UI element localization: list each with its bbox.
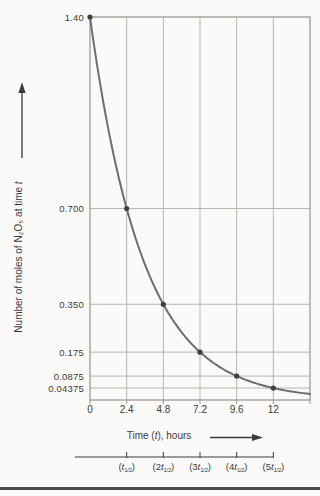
- data-point: [197, 350, 202, 355]
- half-life-label: (5t1/2): [250, 461, 296, 476]
- x-axis-title-text-pre: Time (: [127, 430, 155, 441]
- x-axis-title-text-post: ), hours: [157, 430, 191, 441]
- y-axis-arrow-head: [18, 82, 25, 93]
- data-point: [161, 302, 166, 307]
- data-point: [234, 373, 239, 378]
- x-axis-arrow-head: [252, 434, 263, 441]
- x-tick-label: 0: [73, 404, 107, 415]
- x-tick-label: 7.2: [183, 404, 217, 415]
- y-tick-label: 0.350: [0, 299, 84, 310]
- data-point: [87, 14, 92, 19]
- y-tick-label: 0.0875: [0, 371, 84, 382]
- y-tick-label: 0.04375: [0, 383, 84, 394]
- x-tick-label: 9.6: [220, 404, 254, 415]
- y-axis-title-variable: t: [13, 181, 24, 184]
- chart-canvas: [0, 0, 320, 496]
- data-point: [271, 385, 276, 390]
- y-tick-label: 0.700: [0, 203, 84, 214]
- page-rule: [0, 487, 320, 490]
- x-axis-title: Time (t), hours: [104, 429, 214, 442]
- data-point: [124, 206, 129, 211]
- x-tick-label: 12: [256, 404, 290, 415]
- y-tick-label: 0.175: [0, 347, 84, 358]
- x-tick-label: 2.4: [110, 404, 144, 415]
- y-tick-label: 1.40: [0, 12, 84, 23]
- x-tick-label: 4.8: [146, 404, 180, 415]
- decay-chart-figure: Number of moles of N₂O₅ at time t Time (…: [0, 0, 320, 496]
- y-axis-title: Number of moles of N₂O₅ at time t: [12, 152, 26, 362]
